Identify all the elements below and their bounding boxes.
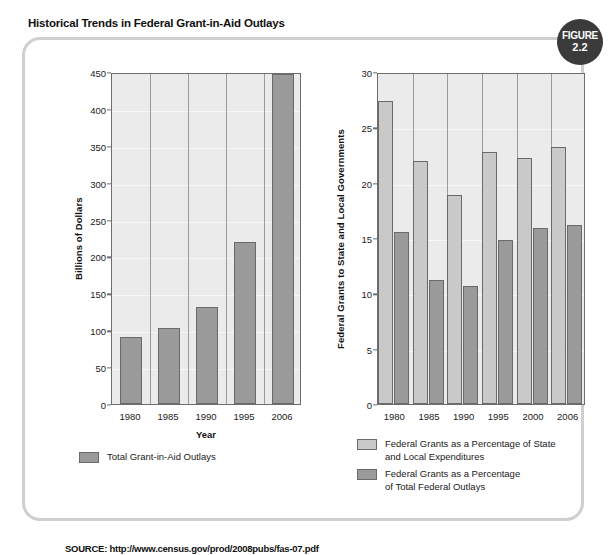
- gridline: [378, 129, 584, 130]
- x-tick-label-1995: 1995: [225, 411, 263, 422]
- x-tick-label-1990: 1990: [446, 411, 481, 422]
- x-tick-label-1980: 1980: [377, 411, 412, 422]
- y-tick-mark: [107, 183, 111, 184]
- bar-1990-series2: [463, 286, 478, 404]
- y-tick-label: 20: [347, 178, 372, 189]
- y-tick-label: 0: [347, 400, 372, 411]
- legend-label: Federal Grants as a Percentage of Statea…: [385, 438, 556, 463]
- bar-1985-series1: [158, 328, 180, 404]
- chart-right-plot-area: [377, 73, 585, 405]
- y-tick-mark: [107, 331, 111, 332]
- x-tick-label-1995: 1995: [481, 411, 516, 422]
- legend-swatch-icon: [357, 439, 377, 450]
- category-separator: [150, 74, 151, 404]
- bar-1995-series2: [498, 240, 513, 404]
- y-tick-mark: [107, 72, 111, 73]
- x-tick-label-1985: 1985: [149, 411, 187, 422]
- figure-badge-word: FIGURE: [562, 31, 598, 41]
- source-note: SOURCE: http://www.census.gov/prod/2008p…: [65, 543, 319, 554]
- y-tick-label: 25: [347, 123, 372, 134]
- chart-left-y-axis-title: Billions of Dollars: [71, 73, 85, 405]
- y-tick-label: 200: [81, 252, 106, 263]
- y-tick-label: 150: [81, 289, 106, 300]
- bar-2000-series1: [517, 158, 532, 404]
- y-tick-mark: [107, 257, 111, 258]
- x-tick-label-2006: 2006: [263, 411, 301, 422]
- chart-left-plot-area: [111, 73, 301, 405]
- legend-swatch-icon: [79, 452, 99, 463]
- category-separator: [264, 74, 265, 404]
- bar-2006-series1: [551, 147, 566, 404]
- legend-swatch-icon: [357, 469, 377, 480]
- y-tick-mark: [373, 183, 377, 184]
- legend-item-1: Total Grant-in-Aid Outlays: [79, 451, 319, 464]
- y-tick-mark: [107, 367, 111, 368]
- y-tick-mark: [373, 349, 377, 350]
- y-tick-mark: [107, 146, 111, 147]
- bar-1985-series1: [413, 161, 428, 404]
- y-tick-label: 0: [81, 400, 106, 411]
- bar-1990-series1: [196, 307, 218, 404]
- y-tick-mark: [107, 109, 111, 110]
- bar-1990-series1: [447, 195, 462, 404]
- legend-item-1: Federal Grants as a Percentage of Statea…: [357, 438, 587, 463]
- chart-right-legend: Federal Grants as a Percentage of Statea…: [357, 438, 587, 498]
- x-tick-label-2006: 2006: [550, 411, 585, 422]
- y-tick-label: 100: [81, 326, 106, 337]
- bar-2000-series2: [533, 228, 548, 404]
- bar-1980-series2: [394, 232, 409, 404]
- bar-1980-series1: [120, 337, 142, 404]
- legend-label: Total Grant-in-Aid Outlays: [107, 451, 216, 464]
- y-tick-label: 450: [81, 68, 106, 79]
- bar-1985-series2: [429, 280, 444, 404]
- y-tick-mark: [373, 72, 377, 73]
- x-tick-label-2000: 2000: [516, 411, 551, 422]
- figure-badge: FIGURE 2.2: [557, 19, 603, 65]
- bar-1980-series1: [378, 101, 393, 404]
- bar-1995-series1: [234, 242, 256, 404]
- y-tick-mark: [107, 294, 111, 295]
- y-tick-mark: [107, 220, 111, 221]
- chart-right-y-axis-title: Federal Grants to State and Local Govern…: [333, 73, 347, 405]
- chart-left-legend: Total Grant-in-Aid Outlays: [79, 451, 319, 469]
- y-tick-label: 30: [347, 68, 372, 79]
- category-separator: [226, 74, 227, 404]
- bar-2006-series1: [272, 74, 294, 404]
- y-tick-mark: [373, 404, 377, 405]
- y-tick-mark: [373, 294, 377, 295]
- bar-1995-series1: [482, 152, 497, 404]
- y-tick-label: 350: [81, 141, 106, 152]
- category-separator: [188, 74, 189, 404]
- y-tick-label: 250: [81, 215, 106, 226]
- bar-2006-series2: [567, 225, 582, 404]
- x-tick-label-1990: 1990: [187, 411, 225, 422]
- page-title: Historical Trends in Federal Grant-in-Ai…: [28, 17, 285, 29]
- y-tick-mark: [373, 238, 377, 239]
- y-tick-label: 400: [81, 104, 106, 115]
- figure-frame: Billions of Dollars 05010015020025030035…: [22, 37, 584, 521]
- chart-left-x-axis-title: Year: [111, 429, 301, 440]
- y-tick-mark: [107, 404, 111, 405]
- legend-label: Federal Grants as a Percentageof Total F…: [385, 468, 520, 493]
- legend-item-2: Federal Grants as a Percentageof Total F…: [357, 468, 587, 493]
- x-tick-label-1980: 1980: [111, 411, 149, 422]
- figure-badge-number: 2.2: [572, 42, 587, 53]
- y-tick-mark: [373, 128, 377, 129]
- y-tick-label: 5: [347, 344, 372, 355]
- x-tick-label-1985: 1985: [412, 411, 447, 422]
- y-tick-label: 15: [347, 234, 372, 245]
- y-tick-label: 10: [347, 289, 372, 300]
- y-tick-label: 50: [81, 363, 106, 374]
- y-tick-label: 300: [81, 178, 106, 189]
